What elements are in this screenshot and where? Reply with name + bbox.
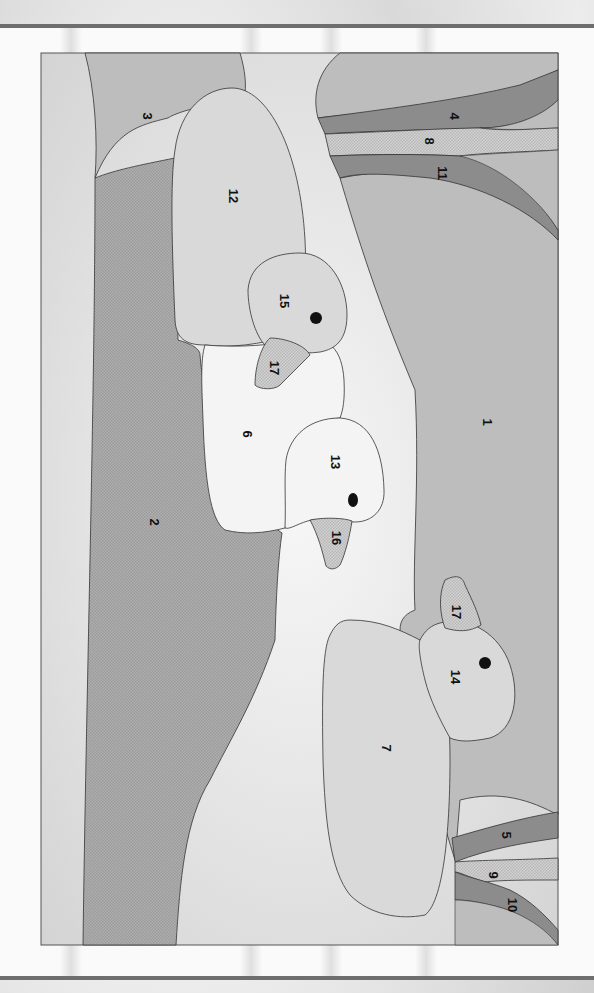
- label-region-12: 12: [226, 189, 241, 203]
- label-region-17a: 17: [267, 361, 282, 375]
- label-region-8: 8: [422, 137, 437, 144]
- label-region-17b: 17: [449, 605, 464, 619]
- label-region-2: 2: [147, 518, 162, 525]
- region-8: [325, 128, 558, 156]
- label-region-11: 11: [435, 166, 450, 180]
- label-region-3: 3: [140, 112, 155, 119]
- label-region-14: 14: [448, 670, 463, 685]
- label-region-10: 10: [505, 898, 520, 912]
- label-region-1: 1: [480, 418, 495, 425]
- eye-icon: [479, 657, 491, 669]
- label-region-9: 9: [486, 871, 501, 878]
- label-region-4: 4: [447, 112, 462, 120]
- label-region-13: 13: [328, 455, 343, 469]
- label-region-5: 5: [499, 831, 514, 838]
- eye-icon: [310, 312, 322, 324]
- label-region-7: 7: [379, 744, 394, 751]
- label-region-16: 16: [329, 531, 344, 545]
- region-13: [285, 418, 384, 528]
- eye-icon: [348, 493, 358, 507]
- paint-by-number-diagram: 1 2 3 4 5 6 7 8 9 10 11 12 13 14 15 16 1…: [0, 0, 594, 993]
- label-region-15: 15: [277, 294, 292, 308]
- label-region-6: 6: [240, 430, 255, 437]
